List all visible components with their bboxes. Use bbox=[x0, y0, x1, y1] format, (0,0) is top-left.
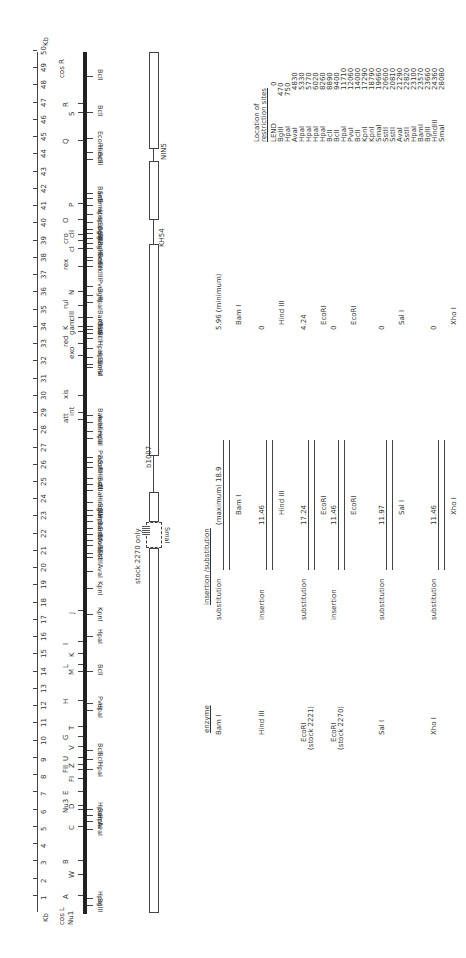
left-value: 11.46 bbox=[330, 505, 338, 525]
gene-label: S bbox=[68, 112, 76, 116]
scale-tick-label: 49 bbox=[40, 63, 48, 72]
gene-label: K bbox=[68, 653, 76, 658]
scale-axis bbox=[37, 52, 38, 912]
gene-label: U bbox=[62, 756, 70, 761]
site-label: EcoRI bbox=[96, 131, 103, 149]
stock-2270-note: stock 2270 only bbox=[134, 528, 142, 584]
scale-tick bbox=[33, 119, 37, 120]
gene-label: G bbox=[62, 735, 70, 740]
scale-tick-label: 2 bbox=[40, 878, 48, 882]
scale-tick-label: 12 bbox=[40, 701, 48, 710]
scale-tick-label: 29 bbox=[40, 408, 48, 417]
site-tick bbox=[87, 521, 93, 522]
site-tick bbox=[87, 510, 93, 511]
gene-tick bbox=[78, 203, 83, 204]
scale-tick-label: 42 bbox=[40, 184, 48, 193]
scale-tick-label: 23 bbox=[40, 512, 48, 521]
left-value: (maximum) 18.9 bbox=[215, 466, 223, 525]
gene-tick bbox=[78, 248, 83, 249]
gene-tick bbox=[78, 726, 83, 727]
site-tick bbox=[87, 205, 93, 206]
right-value: 0 bbox=[430, 326, 438, 330]
scale-tick bbox=[33, 84, 37, 85]
gene-tick bbox=[78, 317, 83, 318]
site-label: KpnI bbox=[96, 581, 103, 595]
scale-tick bbox=[33, 619, 37, 620]
scale-tick-label: 50 bbox=[40, 46, 48, 55]
site-tick bbox=[87, 815, 93, 816]
scale-tick bbox=[33, 395, 37, 396]
scale-tick bbox=[33, 102, 37, 103]
site-label: KpnI bbox=[96, 607, 103, 621]
site-right: Hind III bbox=[278, 300, 286, 325]
gene-tick bbox=[78, 234, 83, 235]
gene-tick bbox=[78, 653, 83, 654]
scale-tick-label: 20 bbox=[40, 563, 48, 572]
site-tick bbox=[87, 233, 93, 234]
site-tick bbox=[87, 295, 93, 296]
site-right: Bam I bbox=[235, 305, 243, 325]
scale-tick bbox=[33, 774, 37, 775]
scale-tick bbox=[33, 274, 37, 275]
gene-label: cIII bbox=[68, 311, 76, 321]
scale-tick bbox=[33, 481, 37, 482]
scale-tick bbox=[33, 205, 37, 206]
scale-tick-label: 31 bbox=[40, 374, 48, 383]
scale-tick bbox=[33, 567, 37, 568]
genome-bar bbox=[83, 52, 87, 914]
scale-tick bbox=[33, 309, 37, 310]
deletion-box-4 bbox=[149, 492, 159, 522]
gene-tick bbox=[78, 343, 83, 344]
site-label: HpaI bbox=[96, 891, 103, 906]
site-label: HpaI bbox=[96, 341, 103, 356]
gene-label: R bbox=[62, 103, 70, 108]
scale-tick bbox=[33, 602, 37, 603]
right-value: 4.24 bbox=[300, 314, 308, 330]
scale-tick-label: 1 bbox=[40, 895, 48, 899]
scale-tick-label: 35 bbox=[40, 305, 48, 314]
site-tick bbox=[87, 540, 93, 541]
deletion-box-1 bbox=[149, 52, 159, 149]
site-tick bbox=[87, 710, 93, 711]
scale-tick bbox=[33, 447, 37, 448]
gene-label: O bbox=[62, 217, 70, 223]
right-value: 0 bbox=[378, 326, 386, 330]
site-tick bbox=[87, 326, 93, 327]
gene-tick bbox=[78, 419, 83, 420]
scale-tick-label: 8 bbox=[40, 775, 48, 779]
scale-tick-label: 39 bbox=[40, 236, 48, 245]
enzyme-name: Hind III bbox=[258, 710, 266, 735]
site-tick bbox=[87, 431, 93, 432]
scale-tick-label: 26 bbox=[40, 460, 48, 469]
gene-tick bbox=[78, 700, 83, 701]
gene-tick bbox=[78, 860, 83, 861]
site-tick bbox=[87, 159, 93, 160]
scale-tick bbox=[33, 584, 37, 585]
gene-tick bbox=[78, 746, 83, 747]
scale-tick-label: 41 bbox=[40, 201, 48, 210]
site-tick bbox=[87, 338, 93, 339]
site-tick bbox=[87, 467, 93, 468]
site-tick bbox=[87, 534, 93, 535]
site-left: Bam I bbox=[235, 495, 243, 515]
gene-label: T bbox=[68, 726, 76, 730]
gene-label: L bbox=[62, 664, 70, 668]
scale-tick-label: 40 bbox=[40, 218, 48, 227]
scale-tick bbox=[33, 653, 37, 654]
scale-tick bbox=[33, 50, 37, 51]
gene-tick bbox=[78, 112, 83, 113]
gene-label: A bbox=[62, 894, 70, 899]
gene-tick bbox=[78, 305, 83, 306]
scale-tick bbox=[33, 326, 37, 327]
site-tick bbox=[87, 484, 93, 485]
fragment-line bbox=[272, 440, 273, 570]
scale-tick-label: 21 bbox=[40, 546, 48, 555]
gene-tick bbox=[78, 895, 83, 896]
gene-tick bbox=[78, 103, 83, 104]
site-tick bbox=[87, 222, 93, 223]
scale-tick-label: 38 bbox=[40, 253, 48, 262]
gene-tick bbox=[78, 736, 83, 737]
scale-tick-label: 18 bbox=[40, 598, 48, 607]
scale-tick-label: 17 bbox=[40, 615, 48, 624]
site-tick bbox=[87, 238, 93, 239]
